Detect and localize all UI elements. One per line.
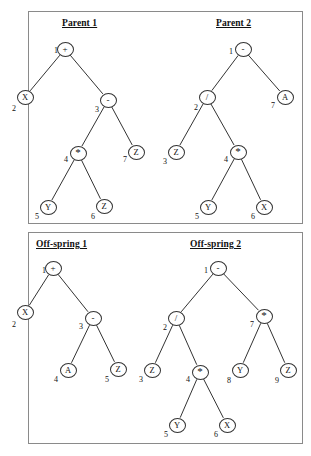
node-index-label: 3 [95, 105, 99, 114]
tree-node-terminal-2: X [17, 90, 34, 105]
node-index-label: 6 [91, 212, 95, 221]
tree-node-operator-3: - [100, 93, 117, 108]
tree-node-operator-4: * [70, 146, 87, 161]
node-index-label: 5 [164, 430, 168, 439]
tree-node-terminal-5: Y [169, 418, 186, 433]
genetic-programming-crossover-figure: Parent 1 Parent 2 Off-spring 1 Off-sprin… [0, 0, 311, 456]
parent-2-title: Parent 2 [216, 18, 251, 28]
node-index-label: 8 [227, 376, 231, 385]
offspring-2-title: Off-spring 2 [190, 239, 241, 249]
node-index-label: 2 [12, 104, 16, 113]
node-index-label: 6 [214, 430, 218, 439]
node-index-label: 7 [271, 101, 275, 110]
offspring-1-title: Off-spring 1 [36, 239, 87, 249]
tree-node-operator-4: * [230, 145, 247, 160]
node-index-label: 4 [54, 375, 58, 384]
tree-node-terminal-5: Y [200, 200, 217, 215]
tree-node-terminal-7: A [277, 90, 294, 105]
tree-node-operator-4: * [192, 365, 209, 380]
node-index-label: 3 [139, 375, 143, 384]
parent-1-title: Parent 1 [62, 18, 97, 28]
tree-node-terminal-5: Y [40, 200, 57, 215]
tree-node-terminal-2: X [17, 305, 34, 320]
tree-node-operator-1: - [210, 261, 227, 276]
node-index-label: 4 [224, 155, 228, 164]
node-index-label: 7 [250, 320, 254, 329]
tree-node-operator-1: + [57, 42, 74, 57]
offspring-panel [28, 232, 303, 444]
tree-node-operator-2: / [168, 311, 185, 326]
node-index-label: 6 [251, 212, 255, 221]
tree-node-operator-1: + [45, 261, 62, 276]
node-index-label: 5 [195, 212, 199, 221]
node-index-label: 7 [123, 155, 127, 164]
node-index-label: 3 [79, 322, 83, 331]
tree-node-terminal-8: Y [232, 363, 249, 378]
tree-node-operator-2: / [199, 90, 216, 105]
node-index-label: 2 [194, 103, 198, 112]
tree-node-operator-7: * [256, 309, 273, 324]
tree-node-terminal-6: X [219, 418, 236, 433]
tree-node-terminal-7: Z [128, 145, 145, 160]
node-index-label: 1 [204, 266, 208, 275]
node-index-label: 4 [186, 375, 190, 384]
node-index-label: 5 [105, 375, 109, 384]
tree-node-terminal-3: Z [144, 363, 161, 378]
tree-node-terminal-9: Z [280, 363, 297, 378]
tree-node-terminal-5: Z [110, 362, 127, 377]
node-index-label: 5 [35, 212, 39, 221]
node-index-label: 9 [275, 376, 279, 385]
tree-node-terminal-6: X [256, 200, 273, 215]
tree-node-operator-3: - [85, 311, 102, 326]
node-index-label: 1 [229, 47, 233, 56]
node-index-label: 3 [163, 157, 167, 166]
node-index-label: 4 [64, 155, 68, 164]
node-index-label: 2 [163, 323, 167, 332]
tree-node-terminal-4: A [60, 363, 77, 378]
tree-node-operator-1: - [235, 42, 252, 57]
tree-node-terminal-6: Z [96, 199, 113, 214]
tree-node-terminal-3: Z [168, 145, 185, 160]
node-index-label: 2 [12, 320, 16, 329]
